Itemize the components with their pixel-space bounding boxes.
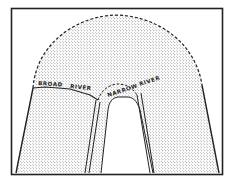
diagram-canvas: BROAD RIVER NARROW RIVER xyxy=(0,0,231,182)
river-diagram: BROAD RIVER NARROW RIVER xyxy=(0,0,231,182)
